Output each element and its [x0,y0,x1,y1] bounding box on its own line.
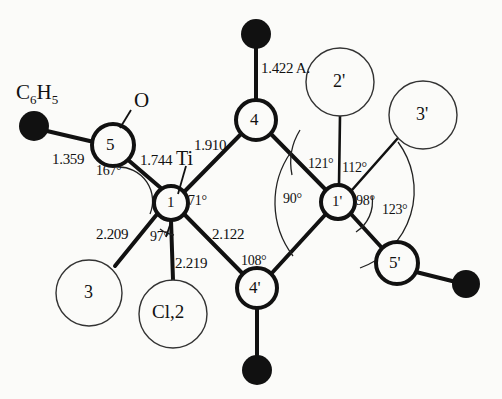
leader-oxygen-to-5 [120,110,131,128]
atom-label-5: 5 [106,136,115,153]
angle-label-97: 97° [150,230,169,244]
atom-label-ti1prime: 1' [332,194,342,209]
angle-label-98: 98° [356,194,375,208]
atom-label-3prime: 3' [416,105,428,123]
molecule-svg [0,0,502,399]
angle-label-90: 90° [283,192,302,206]
bond-5p-oxygen [416,272,452,281]
atom-label-4prime: 4' [249,279,261,296]
filled-atom-o-top [241,19,271,49]
angle-label-71: 71° [188,194,207,208]
atom-label-4: 4 [250,111,259,128]
angle-label-167: 167° [96,164,121,178]
phenyl-group-label: C6H5 [16,82,58,106]
filled-atom-phenyl [19,111,49,141]
atom-label-3: 3 [84,283,93,301]
atom-label-cl2: Cl,2 [152,302,184,321]
bond-length-4-oxygen: 1.422 A. [261,61,310,76]
oxygen-label: O [134,90,149,111]
bond-length-ti1-cl2: 2.219 [175,256,207,271]
atom-label-5prime: 5' [389,254,401,271]
atom-label-2prime: 2' [333,72,345,90]
angle-label-123: 123° [382,203,407,217]
atom-label-ti1: 1 [167,195,175,210]
arc-121 [291,130,300,175]
bond-lines-thin [339,116,398,190]
bond-ti1-cl2 [171,220,173,280]
angle-label-108: 108° [241,254,266,268]
bond-length-phenyl-5: 1.359 [52,152,84,167]
bond-length-5-ti1: 1.744 [140,153,172,168]
filled-atoms [19,19,480,385]
bond-length-ti1-4: 1.910 [194,138,226,153]
filled-atom-o-right [452,270,480,298]
bond-4p-ti1p [271,215,325,274]
filled-atom-o-bottom [242,355,272,385]
angle-label-121: 121° [308,157,333,171]
bond-ti1p-2p [339,116,340,185]
molecular-diagram: 5 4 1 1' 4' 5' 2' 3' 3 Cl,2 1.359 1.744 … [0,0,502,399]
bond-length-ti1-4prime: 2.122 [212,227,244,242]
angle-label-112: 112° [342,161,367,175]
bond-length-ti1-3: 2.209 [96,227,128,242]
bond-phenyl-5 [47,131,94,142]
titanium-label: Ti [176,148,193,168]
